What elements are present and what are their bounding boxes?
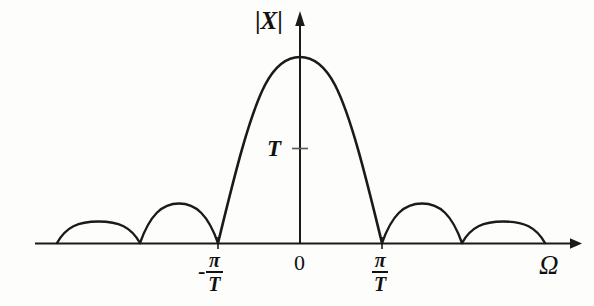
tick-label-zero: 0 (294, 252, 305, 274)
fraction-stack: π T (372, 250, 388, 294)
side-lobe-left-inner (140, 204, 218, 244)
fraction-numerator: π (207, 250, 222, 271)
tick-label-pi-over-t: π T (372, 250, 388, 294)
fraction-numerator: π (373, 250, 388, 271)
figure-container: |X| T Ω 0 - π T π T (0, 0, 594, 306)
abscissa-axis-label: Ω (539, 252, 559, 279)
fraction-denominator: T (206, 273, 222, 294)
minus-sign: - (198, 258, 205, 284)
amplitude-label: T (267, 137, 281, 160)
y-axis-arrowhead (295, 11, 305, 26)
ordinate-axis-label: |X| (255, 8, 283, 33)
side-lobe-right-inner (382, 204, 462, 244)
x-axis-arrowhead (570, 238, 582, 249)
tick-label-neg-pi-over-t: - π T (198, 250, 223, 294)
fraction-denominator: T (372, 273, 388, 294)
ordinate-right-bar: | (277, 7, 283, 34)
fraction-stack: π T (206, 250, 222, 294)
side-lobe-right-outer (462, 222, 545, 244)
side-lobe-left-outer (57, 222, 140, 244)
ordinate-symbol: X (261, 7, 278, 34)
